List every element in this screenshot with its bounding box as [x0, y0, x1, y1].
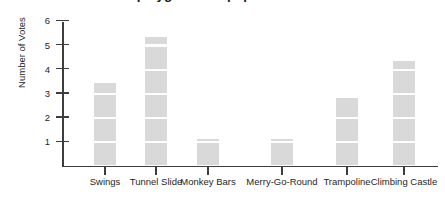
y-tick-label: 3 [34, 87, 50, 98]
bar-unit-block [393, 95, 415, 117]
plot-area: 123456 SwingsTunnel SlideMonkey BarsMerr… [0, 0, 445, 209]
bar-unit-block [145, 119, 167, 141]
x-tick-mark [403, 166, 405, 175]
y-tick-label: 1 [34, 136, 50, 147]
bar-unit-block [94, 95, 116, 117]
bar-chart: Results of vote on playground equipment … [0, 0, 445, 209]
x-tick-mark [207, 166, 209, 175]
x-tick-label: Monkey Bars [171, 176, 245, 188]
bar [197, 136, 219, 165]
bar-unit-block [336, 143, 358, 165]
bar-unit-block [197, 143, 219, 165]
bar-unit-block [145, 37, 167, 44]
bar [336, 95, 358, 165]
bar-unit-block [393, 119, 415, 141]
y-tick-mark [56, 92, 69, 94]
y-tick-mark [56, 44, 69, 46]
bar-unit-block [94, 119, 116, 141]
x-tick-mark [155, 166, 157, 175]
y-tick-mark [56, 68, 69, 70]
bar-unit-block [145, 95, 167, 117]
bar [145, 35, 167, 166]
bar-unit-block [145, 47, 167, 69]
bar-unit-block [94, 83, 116, 93]
bar-unit-block [145, 71, 167, 93]
bar-unit-block [336, 119, 358, 141]
bar-unit-block [197, 139, 219, 142]
x-tick-mark [104, 166, 106, 175]
y-tick-label: 4 [34, 63, 50, 74]
bar [94, 81, 116, 166]
y-tick-mark [56, 20, 69, 22]
x-tick-mark [346, 166, 348, 175]
y-tick-label: 6 [34, 15, 50, 26]
y-tick-label: 2 [34, 112, 50, 123]
x-tick-label: Climbing Castle [367, 176, 441, 188]
bar-unit-block [94, 143, 116, 165]
bar-unit-block [393, 61, 415, 68]
bar-unit-block [336, 98, 358, 118]
y-tick-label: 5 [34, 39, 50, 50]
x-tick-mark [281, 166, 283, 175]
x-tick-label: Merry-Go-Round [245, 176, 319, 188]
bar-unit-block [393, 71, 415, 93]
y-tick-mark [56, 141, 69, 143]
bar [393, 59, 415, 165]
bar [271, 136, 293, 165]
bar-unit-block [271, 139, 293, 142]
bar-unit-block [393, 143, 415, 165]
bar-unit-block [271, 143, 293, 165]
x-axis-line [62, 166, 438, 168]
bar-unit-block [145, 143, 167, 165]
y-tick-mark [56, 116, 69, 118]
